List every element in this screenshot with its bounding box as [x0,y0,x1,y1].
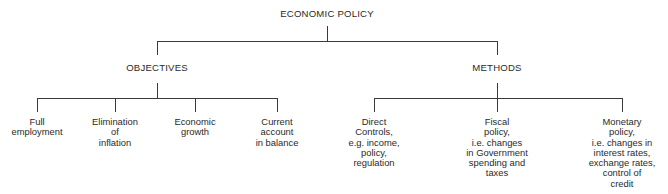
connector-leaf-current-account [277,98,278,112]
connector-level1-bar [157,41,498,42]
connector-root-stem [327,26,328,41]
connector-leaf-economic-growth [195,98,196,112]
leaf-text-line: regulation [348,158,399,168]
branch-node-objectives: OBJECTIVES [126,62,188,73]
connector-methods-out [497,83,498,98]
connector-leaf-elimination-inflation [115,98,116,112]
leaf-text-line: in balance [256,138,299,148]
leaf-text-line: credit [589,179,656,189]
connector-leaf-fiscal-policy [497,98,498,112]
leaf-node-elimination-of-inflation: Elimination of inflation [92,117,138,148]
leaf-node-monetary-policy: Monetary policy, i.e. changes in interes… [589,117,656,189]
connector-methods-in [497,41,498,55]
leaf-node-full-employment: Full employment [11,117,62,138]
connector-objectives-in [157,41,158,55]
leaf-node-current-account-in-balance: Current account in balance [256,117,299,148]
connector-leaf-monetary-policy [622,98,623,112]
connector-objectives-out [157,83,158,98]
leaf-node-fiscal-policy: Fiscal policy, i.e. changes in Governmen… [466,117,528,179]
connector-leaf-full-employment [37,98,38,112]
root-node-economic-policy: ECONOMIC POLICY [280,8,374,19]
leaf-node-direct-controls: Direct Controls, e.g. income, policy, re… [348,117,399,168]
leaf-text-line: taxes [466,168,528,178]
connector-methods-bar [374,98,623,99]
connector-objectives-bar [37,98,278,99]
leaf-text-line: inflation [92,138,138,148]
leaf-text-line: employment [11,127,62,137]
branch-node-methods: METHODS [472,62,521,73]
leaf-text-line: growth [174,127,215,137]
connector-leaf-direct-controls [374,98,375,112]
leaf-node-economic-growth: Economic growth [174,117,215,138]
